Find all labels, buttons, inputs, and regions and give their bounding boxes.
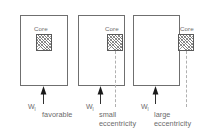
load-arrow-2 xyxy=(97,86,104,104)
core-label-2: Core xyxy=(105,25,119,32)
core-centerline-3 xyxy=(186,51,187,107)
caption-small-line2: eccentricity xyxy=(99,119,136,128)
load-label-3: Wl xyxy=(141,103,149,113)
core-block-3 xyxy=(178,34,194,51)
load-arrow-3 xyxy=(152,86,159,104)
caption-small-line1: small xyxy=(99,110,116,119)
vessel-box-3 xyxy=(133,15,180,86)
load-symbol-3: W xyxy=(141,103,148,110)
core-block-2 xyxy=(107,34,123,51)
load-symbol-2: W xyxy=(86,103,93,110)
load-subscript-3: l xyxy=(148,106,149,112)
load-symbol-1: W xyxy=(28,103,35,110)
core-block-1 xyxy=(36,34,52,51)
load-subscript-2: l xyxy=(93,106,94,112)
caption-favorable-line1: favorable xyxy=(42,110,72,119)
load-arrow-1 xyxy=(40,86,47,104)
diagram-canvas: Core Wl favorable Core Wl small eccentri… xyxy=(0,0,211,135)
core-label-3: Core xyxy=(180,25,194,32)
load-label-2: Wl xyxy=(86,103,94,113)
load-subscript-1: l xyxy=(35,106,36,112)
caption-large-line1: large xyxy=(154,110,170,119)
caption-large-line2: eccentricity xyxy=(154,119,191,128)
core-label-1: Core xyxy=(34,25,48,32)
load-label-1: Wl xyxy=(28,103,36,113)
core-centerline-2 xyxy=(115,51,116,107)
